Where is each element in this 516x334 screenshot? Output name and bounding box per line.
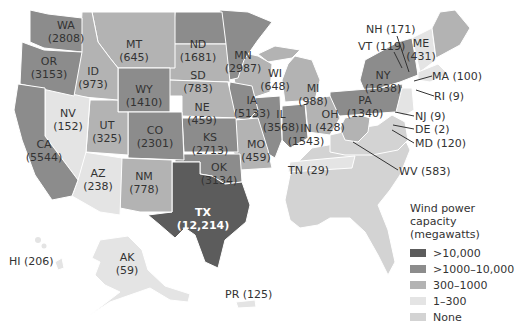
legend-swatch (410, 265, 426, 273)
legend-item-1000-10000: >1000–10,000 (410, 261, 516, 277)
label-wy: WY (135, 83, 153, 96)
label-mt: MT (126, 38, 142, 51)
callout-tn: TN (29) (287, 164, 329, 177)
legend-label: 1–300 (433, 295, 467, 308)
state-me (432, 10, 470, 58)
label-nd: ND (190, 38, 207, 51)
label-ca: CA (36, 138, 52, 151)
leader-ri (416, 90, 434, 96)
state-hi-islands-2 (42, 244, 47, 249)
value-co: (2301) (137, 137, 174, 150)
label-ak: AK (120, 251, 136, 264)
value-mo: (459) (241, 151, 271, 164)
value-ks: (2713) (192, 144, 229, 157)
callout-ri: RI (9) (434, 90, 464, 103)
label-ks: KS (203, 131, 217, 144)
value-or: (3153) (31, 68, 68, 81)
callout-md: MD (120) (415, 137, 466, 150)
value-ok: (3134) (201, 174, 238, 187)
label-ne: NE (194, 101, 209, 114)
value-me: (431) (406, 50, 436, 63)
legend-item-gt10000: >10,000 (410, 245, 516, 261)
value-nd: (1681) (180, 51, 217, 64)
value-ia: (5133) (234, 107, 271, 120)
callout-de: DE (2) (415, 123, 450, 136)
label-nm: NM (135, 170, 153, 183)
value-id: (973) (78, 78, 108, 91)
value-nm: (778) (129, 183, 159, 196)
label-ia: IA (247, 94, 258, 107)
legend-label: >10,000 (433, 247, 481, 260)
legend-swatch (410, 313, 426, 321)
territory-pr (236, 300, 256, 308)
label-mi: MI (307, 82, 320, 95)
legend: Wind power capacity (megawatts) >10,000 … (410, 202, 516, 325)
label-mo: MO (247, 138, 265, 151)
state-hi (55, 258, 64, 270)
value-oh: (428) (315, 121, 345, 134)
value-mi: (988) (298, 95, 328, 108)
label-tx: TX (195, 206, 212, 219)
legend-item-1-300: 1–300 (410, 293, 516, 309)
callout-hi: HI (206) (9, 255, 54, 268)
label-oh: OH (322, 108, 339, 121)
value-nv: (152) (53, 120, 83, 133)
callout-wv: WV (583) (399, 165, 450, 178)
callout-nh: NH (171) (366, 23, 416, 36)
label-or: OR (41, 55, 58, 68)
legend-swatch (410, 297, 426, 305)
callout-nj: NJ (9) (415, 110, 446, 123)
legend-title-line1: Wind power capacity (410, 202, 516, 228)
value-wy: (1410) (126, 96, 163, 109)
state-ak (90, 236, 190, 315)
value-tx: (12,214) (177, 219, 230, 232)
legend-title: Wind power capacity (megawatts) (410, 202, 516, 241)
callout-pr: PR (125) (225, 288, 272, 301)
value-mt: (645) (119, 51, 149, 64)
legend-swatch (410, 281, 426, 289)
label-ut: UT (100, 119, 115, 132)
state-hi-islands (35, 237, 41, 243)
value-in: (1543) (288, 135, 325, 148)
callout-vt: VT (119) (358, 40, 405, 53)
label-mn: MN (234, 49, 252, 62)
legend-swatch (410, 249, 426, 257)
label-wa: WA (57, 19, 75, 32)
value-pa: (1340) (347, 107, 384, 120)
label-ny: NY (376, 69, 391, 82)
value-ca: (5544) (26, 151, 63, 164)
legend-label: None (433, 311, 462, 324)
label-in: IN (300, 122, 311, 135)
value-wi: (648) (260, 80, 290, 93)
label-co: CO (147, 124, 164, 137)
legend-label: 300–1000 (433, 279, 488, 292)
label-pa: PA (358, 94, 372, 107)
label-az: AZ (90, 167, 106, 180)
value-wa: (2808) (48, 32, 85, 45)
label-sd: SD (190, 69, 205, 82)
label-nv: NV (60, 107, 76, 120)
value-il: (3568) (263, 121, 300, 134)
label-wi: WI (268, 67, 282, 80)
value-ut: (325) (92, 132, 122, 145)
label-me: ME (413, 37, 429, 50)
value-mn: (2987) (225, 62, 262, 75)
value-sd: (783) (183, 82, 213, 95)
callout-ma: MA (100) (432, 70, 482, 83)
label-id: ID (87, 65, 99, 78)
legend-title-line2: (megawatts) (410, 228, 516, 241)
legend-item-300-1000: 300–1000 (410, 277, 516, 293)
value-ne: (459) (187, 114, 217, 127)
label-il: IL (276, 108, 286, 121)
value-az: (238) (83, 180, 113, 193)
label-ok: OK (211, 161, 228, 174)
legend-item-none: None (410, 309, 516, 325)
legend-label: >1000–10,000 (433, 263, 514, 276)
value-ny: (1638) (365, 82, 402, 95)
value-ak: (59) (116, 264, 139, 277)
